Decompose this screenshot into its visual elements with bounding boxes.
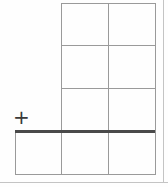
plus-operator: + (13, 108, 29, 126)
addend-cell-r3-c1[interactable] (61, 88, 109, 132)
addend-cell-r3-c2[interactable] (108, 88, 156, 132)
addend-cell-r1-c2[interactable] (108, 3, 156, 46)
addend-cell-r1-c1[interactable] (61, 3, 109, 46)
answer-cell-c0[interactable] (15, 131, 62, 175)
addition-worksheet: + (0, 0, 168, 187)
page-edge-right (163, 0, 164, 183)
answer-cell-c1[interactable] (61, 131, 109, 175)
answer-cell-c2[interactable] (108, 131, 156, 175)
addend-cell-r2-c1[interactable] (61, 45, 109, 89)
addend-cell-r2-c2[interactable] (108, 45, 156, 89)
sum-divider-line (15, 130, 155, 133)
page-edge-bottom (0, 182, 168, 183)
